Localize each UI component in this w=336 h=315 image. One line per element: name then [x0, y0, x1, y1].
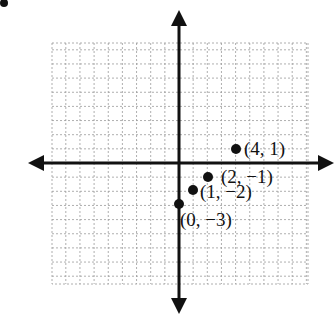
coordinate-plane: (4, 1) (2, −1) (1, −2) (0, −3) — [0, 0, 336, 315]
y-axis-up-arrow-icon — [171, 10, 187, 26]
point-marker — [231, 144, 241, 154]
point-4-1: (4, 1) — [231, 138, 285, 160]
point-marker — [188, 185, 198, 195]
point-0-neg3: (0, −3) — [174, 199, 232, 231]
x-axis-left-arrow-icon — [28, 155, 44, 171]
point-label: (4, 1) — [244, 138, 285, 160]
axes — [28, 10, 334, 314]
corner-bullet-icon — [0, 0, 8, 7]
point-label: (1, −2) — [200, 181, 252, 203]
data-points: (4, 1) (2, −1) (1, −2) (0, −3) — [174, 138, 285, 231]
point-1-neg2: (1, −2) — [188, 181, 252, 203]
x-axis-right-arrow-icon — [318, 155, 334, 171]
point-label: (0, −3) — [180, 209, 232, 231]
y-axis-down-arrow-icon — [171, 298, 187, 314]
point-marker — [174, 199, 184, 209]
